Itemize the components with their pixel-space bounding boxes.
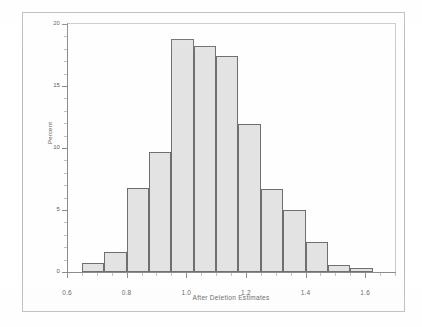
histogram-bar	[350, 268, 372, 272]
y-minor-tick	[64, 222, 67, 223]
y-minor-tick	[64, 185, 67, 186]
y-tick-label: 5	[40, 206, 60, 212]
plot-right-border	[395, 23, 396, 273]
histogram-bar	[194, 46, 216, 272]
x-minor-tick	[142, 273, 143, 276]
histogram-bar	[216, 56, 238, 272]
y-minor-tick	[64, 160, 67, 161]
histogram-bar	[328, 265, 350, 272]
y-minor-tick	[64, 111, 67, 112]
y-axis-title: Percent	[47, 103, 53, 163]
histogram-figure: 05101520 0.60.81.01.21.41.6 Percent Afte…	[0, 0, 422, 327]
y-tick-mark	[62, 24, 67, 25]
histogram-bar	[82, 263, 104, 272]
x-minor-tick	[350, 273, 351, 276]
y-minor-tick	[64, 260, 67, 261]
y-minor-tick	[64, 36, 67, 37]
histogram-bars	[67, 24, 395, 272]
x-tick-mark	[365, 273, 366, 278]
x-minor-tick	[320, 273, 321, 276]
histogram-bar	[104, 252, 126, 272]
x-minor-tick	[261, 273, 262, 276]
y-minor-tick	[64, 235, 67, 236]
x-tick-mark	[186, 273, 187, 278]
x-tick-mark	[246, 273, 247, 278]
histogram-bar	[171, 39, 193, 272]
x-minor-tick	[276, 273, 277, 276]
x-tick-mark	[127, 273, 128, 278]
y-minor-tick	[64, 74, 67, 75]
x-minor-tick	[156, 273, 157, 276]
x-minor-tick	[82, 273, 83, 276]
x-minor-tick	[97, 273, 98, 276]
x-tick-mark	[306, 273, 307, 278]
y-tick-label: 20	[40, 20, 60, 26]
x-minor-tick	[291, 273, 292, 276]
x-minor-tick	[201, 273, 202, 276]
y-minor-tick	[64, 98, 67, 99]
histogram-bar	[149, 152, 171, 272]
y-minor-tick	[64, 173, 67, 174]
x-minor-tick	[231, 273, 232, 276]
x-axis-title: After Deletion Estimates	[67, 294, 395, 301]
y-tick-mark	[62, 148, 67, 149]
y-tick-mark	[62, 210, 67, 211]
y-minor-tick	[64, 247, 67, 248]
y-tick-label: 15	[40, 82, 60, 88]
histogram-bar	[238, 124, 260, 272]
y-minor-tick	[64, 136, 67, 137]
y-minor-tick	[64, 123, 67, 124]
x-minor-tick	[216, 273, 217, 276]
x-minor-tick	[335, 273, 336, 276]
y-tick-mark	[62, 86, 67, 87]
histogram-bar	[127, 188, 149, 272]
histogram-bar	[261, 189, 283, 272]
y-minor-tick	[64, 61, 67, 62]
x-minor-tick	[171, 273, 172, 276]
histogram-bar	[306, 242, 328, 272]
x-minor-tick	[380, 273, 381, 276]
x-tick-mark	[67, 273, 68, 278]
x-minor-tick	[112, 273, 113, 276]
x-minor-tick	[395, 273, 396, 276]
y-minor-tick	[64, 198, 67, 199]
y-minor-tick	[64, 49, 67, 50]
y-tick-label: 0	[40, 268, 60, 274]
histogram-bar	[283, 210, 305, 272]
